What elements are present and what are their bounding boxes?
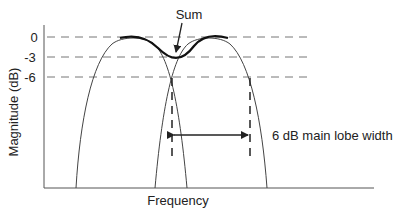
sum-label: Sum xyxy=(176,7,203,22)
ytick-6: -6 xyxy=(24,70,36,85)
sum-curve xyxy=(120,36,228,58)
x-axis-label: Frequency xyxy=(147,193,209,208)
y-axis-label: Magnitude (dB) xyxy=(6,68,21,157)
left-lobe-curve xyxy=(76,38,187,188)
width-label: 6 dB main lobe width xyxy=(272,128,393,143)
main-lobe-diagram: 0 -3 -6 Sum 6 dB main lobe width Frequen… xyxy=(0,0,397,215)
ytick-0: 0 xyxy=(30,30,37,45)
ytick-3: -3 xyxy=(24,50,36,65)
